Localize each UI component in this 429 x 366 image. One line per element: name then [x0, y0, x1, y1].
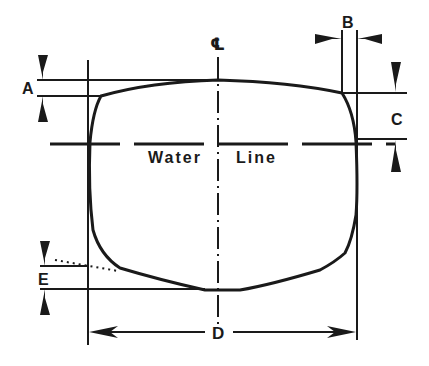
- dim-a-arrow-down-icon: [38, 55, 48, 80]
- dim-c-arrow-down-icon: [391, 62, 401, 92]
- water-line-label-line: Line: [236, 149, 277, 166]
- centerline-symbol: ℄: [210, 35, 225, 54]
- dim-b-label: B: [342, 14, 354, 31]
- dim-a-arrow-up-icon: [38, 96, 48, 122]
- dim-d-label: D: [212, 324, 224, 343]
- dim-a-label: A: [22, 80, 34, 97]
- hull-section-diagram: ℄ Water Line A B C E D: [0, 0, 429, 366]
- dim-e-label: E: [38, 271, 49, 288]
- dim-e-arrow-down-icon: [40, 241, 50, 266]
- dim-b-arrow-left-icon: [357, 34, 382, 44]
- dim-b-arrow-right-icon: [315, 34, 342, 44]
- water-line-label-water: Water: [148, 149, 202, 166]
- hull-outline: [89, 80, 357, 290]
- dim-c-label: C: [391, 111, 403, 128]
- dim-e-arrow-up-icon: [40, 289, 50, 315]
